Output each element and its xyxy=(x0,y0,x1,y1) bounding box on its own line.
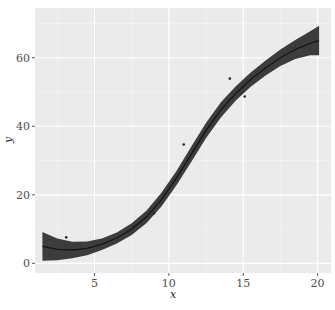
y-tick-label: 0 xyxy=(23,257,30,270)
data-point xyxy=(229,77,232,80)
data-point xyxy=(65,236,68,239)
x-axis: 5101520 xyxy=(91,273,325,290)
y-tick-label: 40 xyxy=(16,120,30,133)
data-point xyxy=(243,95,246,98)
y-axis: 0204060 xyxy=(16,52,35,271)
y-tick-label: 20 xyxy=(16,189,30,202)
y-tick-label: 60 xyxy=(16,52,30,65)
scatter-smooth-chart: 5101520 0204060 x y xyxy=(0,0,335,310)
y-axis-title: y xyxy=(2,136,15,144)
data-point xyxy=(153,212,156,215)
x-axis-title: x xyxy=(170,288,177,301)
x-tick-label: 20 xyxy=(311,277,325,290)
data-point xyxy=(182,143,185,146)
x-tick-label: 5 xyxy=(91,277,98,290)
x-tick-label: 15 xyxy=(236,277,250,290)
